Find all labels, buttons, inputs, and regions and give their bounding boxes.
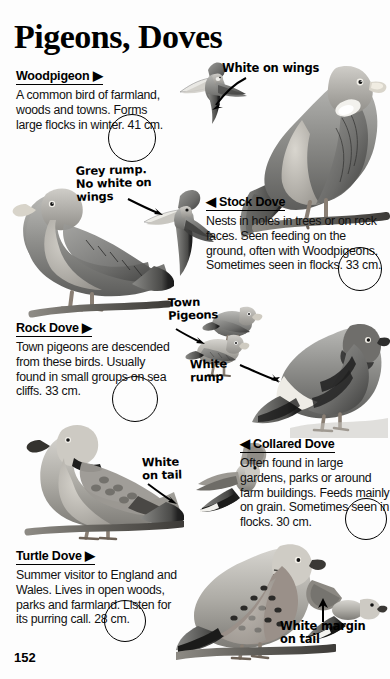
annotation-white-on-tail: White on tail [142, 455, 183, 482]
annotation-white-margin-on-tail: White margin on tail [280, 620, 366, 646]
species-heading-woodpigeon: Woodpigeon ▶ [16, 69, 103, 85]
tick-circle-woodpigeon[interactable] [108, 114, 156, 162]
annotation-town-pigeons: Town Pigeons [168, 295, 219, 322]
tick-circle-rock-dove[interactable] [112, 376, 158, 422]
annotation-white-on-wings: White on wings [222, 62, 319, 75]
species-block-turtle-dove: Turtle Dove ▶ Summer visitor to England … [16, 546, 182, 627]
illustration-rock-dove-perched [250, 320, 390, 438]
tick-circle-collared-dove[interactable] [345, 498, 387, 540]
species-heading-turtle-dove: Turtle Dove ▶ [16, 549, 95, 565]
tick-circle-stock-dove[interactable] [338, 247, 382, 291]
page-title: Pigeons, Doves [14, 20, 222, 54]
page-number: 152 [14, 650, 36, 665]
species-heading-rock-dove: Rock Dove ▶ [16, 321, 92, 337]
annotation-grey-rump: Grey rump. No white on wings [75, 163, 152, 204]
species-heading-stock-dove: ◀ Stock Dove [206, 195, 285, 211]
species-description-turtle-dove: Summer visitor to England and Wales. Liv… [16, 568, 182, 627]
annotation-white-rump: White rump [190, 357, 228, 384]
tick-circle-turtle-dove[interactable] [104, 600, 146, 642]
field-guide-page: Pigeons, Doves Woodpigeon ▶ A common bir… [0, 0, 390, 679]
species-heading-collared-dove: ◀ Collared Dove [240, 437, 335, 453]
